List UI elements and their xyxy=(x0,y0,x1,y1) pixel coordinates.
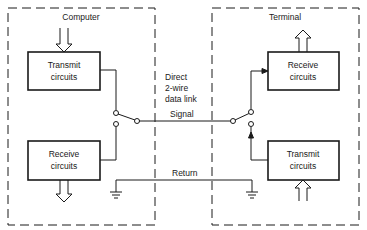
terminal-switch-contact-top xyxy=(249,110,254,115)
computer-input-arrow-icon xyxy=(56,28,72,52)
terminal-receive-box xyxy=(268,52,339,90)
terminal-title: Terminal xyxy=(269,12,301,22)
link-label-3: data link xyxy=(165,94,197,104)
computer-switch-pivot xyxy=(135,119,140,124)
terminal-ground-icon xyxy=(246,192,258,198)
return-label: Return xyxy=(172,168,198,178)
terminal-transmit-arrowhead-icon xyxy=(249,132,254,138)
terminal-receive-wire xyxy=(251,71,264,109)
computer-output-arrow-icon xyxy=(56,180,72,202)
link-label-1: Direct xyxy=(165,72,188,82)
terminal-transmit-wire xyxy=(251,127,268,160)
computer-transmit-box xyxy=(28,52,100,90)
terminal-transmit-label-1: Transmit xyxy=(287,149,320,159)
computer-switch-contact-top xyxy=(114,111,119,116)
computer-title: Computer xyxy=(62,12,99,22)
computer-receive-label-1: Receive xyxy=(49,149,80,159)
terminal-switch-pivot xyxy=(231,119,236,124)
computer-enclosure xyxy=(8,8,155,225)
computer-switch-contact-bottom xyxy=(114,122,119,127)
computer-ground-icon xyxy=(110,192,122,198)
terminal-enclosure xyxy=(212,8,359,225)
terminal-output-arrow-icon xyxy=(295,30,311,52)
computer-transmit-label-2: circuits xyxy=(51,72,77,82)
signal-label: Signal xyxy=(170,109,194,119)
terminal-receive-arrowhead-icon xyxy=(262,69,268,74)
computer-switch-blade xyxy=(118,114,135,120)
terminal-transmit-label-2: circuits xyxy=(290,161,316,171)
terminal-input-arrow-icon xyxy=(295,180,311,201)
terminal-switch-contact-bottom xyxy=(249,122,254,127)
computer-transmit-label-1: Transmit xyxy=(48,60,81,70)
terminal-receive-label-1: Receive xyxy=(288,60,319,70)
data-link-diagram: Computer Terminal Transmit circuits Rece… xyxy=(0,0,367,230)
computer-receive-wire xyxy=(100,127,116,160)
terminal-receive-label-2: circuits xyxy=(290,72,316,82)
link-label-2: 2-wire xyxy=(165,83,188,93)
return-line xyxy=(116,180,252,192)
computer-receive-label-2: circuits xyxy=(51,161,77,171)
computer-transmit-wire xyxy=(100,70,116,110)
terminal-switch-blade xyxy=(235,113,250,120)
